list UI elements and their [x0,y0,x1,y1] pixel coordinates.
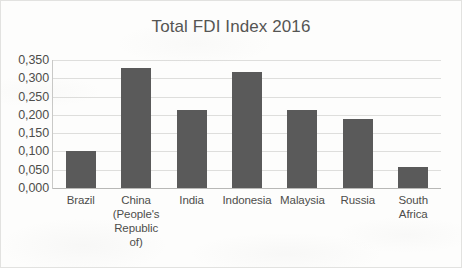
x-axis-category-label: Brazil [53,193,108,249]
bar-slot [164,60,219,188]
bar-slot [108,60,163,188]
bar[interactable] [121,68,151,188]
bar-slot [219,60,274,188]
bar-slot [275,60,330,188]
bar[interactable] [232,72,262,188]
y-axis-tick-label: 0,000 [18,181,49,195]
chart-title: Total FDI Index 2016 [1,17,461,37]
y-axis-tick-label: 0,200 [18,108,49,122]
bar[interactable] [66,151,96,188]
y-axis-tick-label: 0,300 [18,71,49,85]
x-axis-category-label: Indonesia [219,193,274,249]
bar-slot [330,60,385,188]
bar[interactable] [343,119,373,188]
bar[interactable] [177,110,207,188]
y-axis-tick-labels: 0,3500,3000,2500,2000,1500,1000,0500,000 [7,60,49,188]
bar[interactable] [398,167,428,188]
bar-slot [386,60,441,188]
chart-container: Total FDI Index 2016 0,3500,3000,2500,20… [0,0,462,268]
axis-baseline [53,188,441,189]
x-axis-tick-labels: BrazilChina (People's Republic of)IndiaI… [53,193,441,249]
x-axis-category-label: Russia [330,193,385,249]
bar-slot [53,60,108,188]
x-axis-category-label: Malaysia [275,193,330,249]
y-axis-tick-label: 0,150 [18,126,49,140]
x-axis-category-label: India [164,193,219,249]
x-axis-category-label: South Africa [386,193,441,249]
y-axis-tick-label: 0,100 [18,144,49,158]
y-axis-tick-label: 0,050 [18,163,49,177]
y-axis-tick-label: 0,250 [18,90,49,104]
y-axis-tick-label: 0,350 [18,53,49,67]
bar-series [53,60,441,188]
x-axis-category-label: China (People's Republic of) [108,193,163,249]
bar[interactable] [287,110,317,188]
